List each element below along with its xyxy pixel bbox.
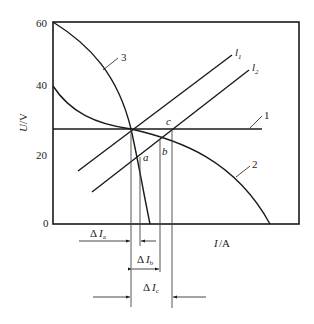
- curve-3-label: 3: [121, 51, 127, 63]
- load-line-l1: [78, 55, 232, 171]
- load-line-l2: [92, 70, 249, 192]
- leader-2: [236, 166, 250, 177]
- curve-1-label: 1: [264, 109, 270, 121]
- svg-text:/A: /A: [219, 237, 230, 249]
- curve-2-label: 2: [252, 158, 258, 170]
- point-b-label: b: [162, 145, 168, 157]
- x-axis-label: I /A: [213, 237, 230, 249]
- delta-ib-label: ΔIb: [137, 253, 154, 267]
- y-tick-40: 40: [36, 79, 48, 91]
- svg-text:/V: /V: [17, 113, 29, 124]
- y-tick-20: 20: [36, 149, 48, 161]
- l1-label: l1: [235, 46, 242, 61]
- delta-ic-label: ΔIc: [143, 281, 159, 295]
- l2-label: l2: [252, 61, 259, 76]
- y-tick-0: 0: [43, 217, 49, 229]
- leader-1: [250, 116, 262, 128]
- y-tick-60: 60: [36, 17, 48, 29]
- y-axis-label: U /V: [17, 113, 29, 132]
- plot-frame: [53, 22, 299, 224]
- point-a-label: a: [143, 151, 149, 163]
- point-c-label: c: [166, 115, 171, 127]
- leader-3: [103, 58, 118, 70]
- delta-ia-label: ΔIa: [90, 227, 107, 241]
- characteristic-diagram: 60 40 20 0 U /V I /A 1 3 2 l1 l2 a b c Δ…: [0, 0, 314, 324]
